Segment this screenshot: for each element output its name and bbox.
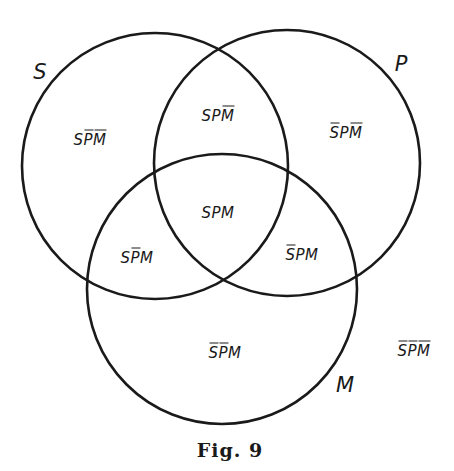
region-label-s-and-p: SPM bbox=[201, 109, 234, 124]
region-label-outside: SPM bbox=[397, 344, 430, 359]
region-label-s-p-m: SPM bbox=[201, 206, 234, 221]
circle-m bbox=[87, 154, 357, 424]
set-label-s: S bbox=[33, 62, 46, 83]
region-label-s-and-m: SPM bbox=[120, 251, 153, 266]
set-label-m: M bbox=[336, 375, 354, 396]
figure-caption: Fig. 9 bbox=[197, 439, 263, 461]
region-label-m-only: SPM bbox=[208, 346, 241, 361]
region-label-s-only: SPM bbox=[73, 133, 106, 148]
set-label-p: P bbox=[395, 54, 408, 75]
region-label-p-only: SPM bbox=[329, 126, 362, 141]
venn-diagram bbox=[0, 0, 454, 471]
region-label-p-and-m: SPM bbox=[285, 248, 318, 263]
